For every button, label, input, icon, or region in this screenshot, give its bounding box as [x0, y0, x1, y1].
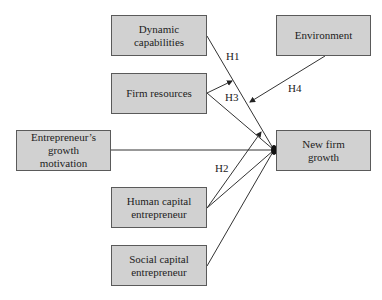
node-label: Environment [295, 29, 352, 42]
conceptual-diagram: Dynamic capabilities Firm resources Envi… [0, 0, 382, 300]
hypothesis-label-h4: H4 [288, 82, 301, 94]
node-human-capital: Human capital entrepreneur [111, 187, 207, 228]
node-label: Social capital entrepreneur [121, 253, 197, 279]
node-label: Firm resources [126, 87, 192, 100]
node-label: Entrepreneur’s growth motivation [24, 131, 104, 170]
node-firm-resources: Firm resources [111, 73, 207, 114]
edge-environment-moderation [250, 56, 325, 102]
node-environment: Environment [276, 15, 371, 56]
node-label: New firm growth [296, 138, 352, 164]
node-dynamic-capabilities: Dynamic capabilities [111, 15, 207, 56]
node-label: Dynamic capabilities [129, 23, 189, 49]
node-new-firm-growth: New firm growth [276, 130, 371, 171]
node-social-capital: Social capital entrepreneur [111, 245, 207, 286]
node-label: Human capital entrepreneur [121, 195, 197, 221]
node-entrepreneur-motivation: Entrepreneur’s growth motivation [16, 130, 111, 171]
edge-firm-resources-to-growth [207, 93, 274, 150]
hypothesis-label-h3: H3 [225, 91, 238, 103]
hypothesis-label-h2: H2 [215, 162, 228, 174]
edge-human-capital-to-growth [207, 150, 274, 208]
hypothesis-label-h1: H1 [226, 50, 239, 62]
